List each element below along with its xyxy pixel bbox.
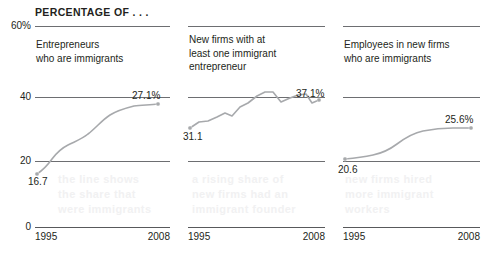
end-value-label-2: 37.1% — [296, 88, 324, 99]
chart-panel-new-firms: a rising share of new firms had an immig… — [180, 0, 340, 256]
start-value-label-1: 16.7 — [28, 176, 47, 187]
x-tick-1995-panel-2: 1995 — [188, 231, 210, 242]
series-end-dot-3 — [469, 126, 473, 130]
x-tick-2008-panel-2: 2008 — [275, 231, 325, 242]
start-value-label-3: 20.6 — [338, 164, 357, 175]
end-value-label-3: 25.6% — [445, 114, 473, 125]
x-tick-1995-panel-3: 1995 — [343, 231, 365, 242]
chart-root: PERCENTAGE OF . . . 60% 40 20 0 the line… — [0, 0, 489, 256]
chart-panel-employees: new firms hired more immigrant workers E… — [335, 0, 489, 256]
series-line-1 — [37, 104, 158, 174]
x-tick-2008-panel-1: 2008 — [120, 231, 170, 242]
series-start-dot-3 — [343, 157, 347, 161]
series-start-dot-2 — [188, 126, 192, 130]
series-plot-1 — [0, 0, 180, 256]
series-plot-3 — [335, 0, 489, 256]
series-end-dot-1 — [156, 102, 160, 106]
x-tick-2008-panel-3: 2008 — [430, 231, 480, 242]
series-line-3 — [345, 128, 471, 159]
chart-panel-entrepreneurs: 60% 40 20 0 the line shows the share tha… — [0, 0, 180, 256]
x-tick-1995-panel-1: 1995 — [35, 231, 57, 242]
series-plot-2 — [180, 0, 340, 256]
end-value-label-1: 27.1% — [132, 90, 160, 101]
start-value-label-2: 31.1 — [183, 131, 202, 142]
